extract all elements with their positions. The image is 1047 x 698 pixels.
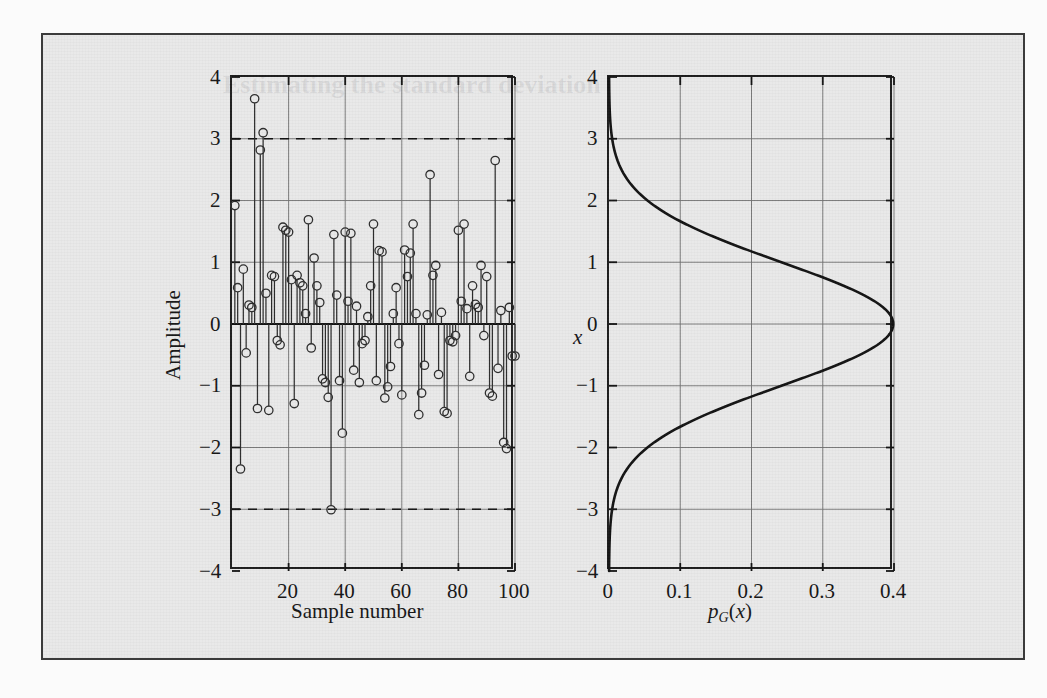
axis-tick-label: −4 (199, 561, 221, 582)
axis-tick-label: −3 (576, 499, 598, 520)
axis-tick-label: −2 (199, 437, 221, 458)
pdf-symbol-subscript: G (719, 610, 729, 625)
axis-tick-label: 0 (210, 314, 221, 335)
axis-tick-label: 3 (587, 128, 598, 149)
gaussian-plot-panel: x pG(x) 00.10.20.30.4−4−3−2−101234 (563, 35, 1025, 660)
stem-plot-panel: Amplitude Sample number 20406080100−4−3−… (43, 35, 563, 660)
axis-tick-label: 1 (210, 252, 221, 273)
axis-tick-label: 2 (210, 190, 221, 211)
gaussian-plot-axes (607, 75, 892, 569)
axis-tick-label: 60 (390, 581, 411, 602)
axis-tick-label: −1 (199, 375, 221, 396)
gaussian-plot-ylabel: x (573, 327, 582, 348)
axis-tick-label: 80 (447, 581, 468, 602)
axis-tick-label: 0.1 (666, 581, 692, 602)
axis-tick-label: 4 (210, 67, 221, 88)
axis-tick-label: −1 (576, 375, 598, 396)
axis-tick-label: 0.3 (809, 581, 835, 602)
axis-tick-label: 4 (587, 67, 598, 88)
axis-tick-label: 2 (587, 190, 598, 211)
axis-tick-label: 0 (603, 581, 614, 602)
figure-panel: Estimating the standard deviation Amplit… (41, 33, 1025, 660)
axis-tick-label: −3 (199, 499, 221, 520)
axis-tick-label: 0.4 (880, 581, 906, 602)
pdf-symbol-p: p (708, 599, 719, 623)
stem-plot-axes (230, 75, 513, 569)
axis-tick-label: −4 (576, 561, 598, 582)
stem-plot-ylabel: Amplitude (163, 290, 184, 380)
axis-tick-label: 40 (334, 581, 355, 602)
axis-tick-label: 1 (587, 252, 598, 273)
axis-tick-label: 3 (210, 128, 221, 149)
axis-tick-label: −2 (576, 437, 598, 458)
stem-plot-xlabel: Sample number (291, 601, 423, 622)
axis-tick-label: 0.2 (738, 581, 764, 602)
axis-tick-label: 100 (498, 581, 530, 602)
axis-tick-label: 0 (587, 314, 598, 335)
gaussian-plot-xlabel: pG(x) (708, 601, 752, 625)
axis-tick-label: 20 (277, 581, 298, 602)
